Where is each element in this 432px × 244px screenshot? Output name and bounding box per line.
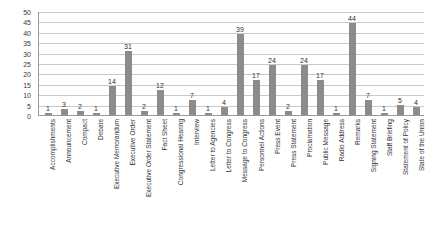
bar-series: 132114312121714391724224171447154 [40, 12, 424, 115]
y-axis-tick-label: 35 [23, 40, 31, 47]
bar[interactable]: 24 [269, 65, 276, 115]
bar[interactable]: 3 [61, 109, 68, 115]
x-axis-tick: Press Event [264, 117, 280, 243]
x-axis-tick: Congressional Hearing [168, 117, 184, 243]
bar-chart: 50454035302520151050 1321143121217143917… [0, 0, 432, 244]
y-axis: 50454035302520151050 [0, 12, 34, 116]
bar[interactable]: 12 [157, 90, 164, 115]
y-axis-tick-label: 40 [23, 29, 31, 36]
bar-slot: 1 [200, 12, 216, 115]
bar-slot: 4 [408, 12, 424, 115]
bar-slot: 24 [264, 12, 280, 115]
bar-value-label: 24 [300, 57, 308, 64]
y-axis-tick-label: 45 [23, 19, 31, 26]
bar[interactable]: 2 [77, 111, 84, 115]
bar-slot: 1 [40, 12, 56, 115]
bar-value-label: 2 [286, 103, 290, 110]
y-axis-tick-label: 30 [23, 50, 31, 57]
x-axis-tick: Fact Sheet [152, 117, 168, 243]
bar-slot: 14 [104, 12, 120, 115]
bar-value-label: 4 [414, 99, 418, 106]
bar-value-label: 2 [142, 103, 146, 110]
bar[interactable]: 4 [221, 107, 228, 115]
bar[interactable]: 7 [365, 100, 372, 115]
x-axis-tick: Press Statement [280, 117, 296, 243]
bar[interactable]: 1 [205, 113, 212, 115]
bar-value-label: 1 [206, 105, 210, 112]
x-axis-tick: Statement of Policy [393, 117, 409, 243]
bar[interactable]: 1 [381, 113, 388, 115]
x-axis-tick: Personnel Actions [248, 117, 264, 243]
bar-value-label: 1 [334, 105, 338, 112]
bar-slot: 4 [216, 12, 232, 115]
x-axis-tick: Accomplishments [39, 117, 55, 243]
bar-slot: 7 [360, 12, 376, 115]
bar-value-label: 24 [268, 57, 276, 64]
y-axis-tick-label: 0 [27, 113, 31, 120]
bar-slot: 3 [56, 12, 72, 115]
bar-value-label: 17 [252, 72, 260, 79]
x-axis-tick: Interview [184, 117, 200, 243]
bar[interactable]: 4 [413, 107, 420, 115]
bar[interactable]: 1 [333, 113, 340, 115]
x-axis-tick: Proclamation [296, 117, 312, 243]
x-axis-tick: Executive Memorandum [103, 117, 119, 243]
bar[interactable]: 17 [317, 80, 324, 115]
bar-slot: 1 [376, 12, 392, 115]
bar[interactable]: 31 [125, 51, 132, 115]
bar[interactable]: 17 [253, 80, 260, 115]
y-axis-tick-label: 15 [23, 81, 31, 88]
bar[interactable]: 5 [397, 105, 404, 115]
x-axis-tick-label: State of the Union [419, 119, 426, 171]
bar[interactable]: 24 [301, 65, 308, 115]
x-axis-tick: Remarks [344, 117, 360, 243]
bar-slot: 17 [248, 12, 264, 115]
x-axis-tick: Executive Order Statement [135, 117, 151, 243]
y-axis-tick-label: 50 [23, 9, 31, 16]
bar[interactable]: 1 [173, 113, 180, 115]
bar[interactable]: 2 [141, 111, 148, 115]
bar-slot: 1 [168, 12, 184, 115]
bar-slot: 12 [152, 12, 168, 115]
x-axis-tick: Letter to Agencies [200, 117, 216, 243]
x-axis-tick: Executive Order [119, 117, 135, 243]
bar[interactable]: 39 [237, 34, 244, 115]
bar-value-label: 1 [174, 105, 178, 112]
y-axis-tick-label: 25 [23, 61, 31, 68]
bar-slot: 24 [296, 12, 312, 115]
x-axis-tick: Message to Congress [232, 117, 248, 243]
bar[interactable]: 1 [45, 113, 52, 115]
bar-value-label: 5 [398, 97, 402, 104]
bar-value-label: 39 [236, 26, 244, 33]
bar-value-label: 7 [190, 92, 194, 99]
bar-value-label: 1 [94, 105, 98, 112]
bar-slot: 17 [312, 12, 328, 115]
x-axis-tick: Announcement [55, 117, 71, 243]
x-axis-tick: Debate [87, 117, 103, 243]
bar-slot: 31 [120, 12, 136, 115]
bar[interactable]: 44 [349, 23, 356, 115]
y-axis-tick-label: 20 [23, 71, 31, 78]
bar[interactable]: 2 [285, 111, 292, 115]
bar-value-label: 2 [78, 103, 82, 110]
bar-slot: 7 [184, 12, 200, 115]
x-axis-tick: Signing Statement [361, 117, 377, 243]
x-axis-tick: State of the Union [409, 117, 425, 243]
bar-value-label: 17 [316, 72, 324, 79]
x-axis-tick: Public Message [312, 117, 328, 243]
bar[interactable]: 7 [189, 100, 196, 115]
bar-slot: 5 [392, 12, 408, 115]
bar-value-label: 44 [348, 15, 356, 22]
bar-slot: 2 [280, 12, 296, 115]
x-axis: AccomplishmentsAnnouncementCompactDebate… [39, 117, 425, 243]
bar[interactable]: 1 [93, 113, 100, 115]
bar-value-label: 1 [382, 105, 386, 112]
x-axis-tick: Radio Address [328, 117, 344, 243]
bar-slot: 39 [232, 12, 248, 115]
bar-value-label: 14 [108, 78, 116, 85]
bar-value-label: 12 [156, 82, 164, 89]
bar[interactable]: 14 [109, 86, 116, 115]
bar-slot: 2 [72, 12, 88, 115]
y-axis-tick-label: 5 [27, 102, 31, 109]
bar-value-label: 1 [46, 105, 50, 112]
